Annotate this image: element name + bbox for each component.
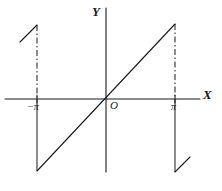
tick-label-pi: π [171,102,176,112]
y-axis-label: Y [92,5,100,18]
sawtooth-wave-figure: X Y O −π π [0,0,222,191]
plot-canvas [0,0,222,191]
sawtooth-branch-left [20,25,37,42]
origin-label: O [110,100,118,111]
x-axis-label: X [203,88,212,101]
tick-label-neg-pi: −π [27,102,39,112]
sawtooth-branch-right [175,157,190,172]
